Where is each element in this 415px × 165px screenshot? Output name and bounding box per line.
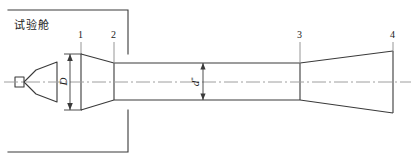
station-label-4: 4 <box>390 30 395 40</box>
station-label-3: 3 <box>297 30 302 40</box>
converging-upper-wall <box>81 54 114 63</box>
throat-diameter-label: d* <box>190 77 202 86</box>
chamber-lower-wall <box>8 110 128 152</box>
station-label-2: 2 <box>111 30 116 40</box>
diameter-D-label: D <box>58 78 69 86</box>
throat-diameter-symbol: d <box>189 81 201 87</box>
throat-diameter-superscript: * <box>189 77 197 81</box>
converging-lower-wall <box>81 100 114 110</box>
dimension-d-arrow-down <box>200 94 205 101</box>
diverging-lower-wall <box>300 100 393 113</box>
nozzle-schematic-figure: 试验舱 1 2 3 4 D d* <box>0 0 415 165</box>
dimension-D-arrow-up <box>67 54 73 61</box>
test-chamber-label: 试验舱 <box>14 20 50 31</box>
diverging-upper-wall <box>300 51 393 63</box>
chamber-upper-wall <box>8 10 128 54</box>
station-label-1: 1 <box>78 30 83 40</box>
dimension-d-arrow-up <box>200 63 205 70</box>
dimension-D-arrow-down <box>67 103 73 110</box>
